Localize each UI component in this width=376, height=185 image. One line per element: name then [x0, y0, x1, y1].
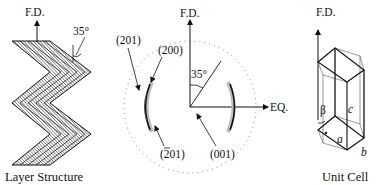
- hatch-line: [19, 30, 159, 175]
- hatch-line: [0, 30, 108, 175]
- reflection-200-pointer: [151, 57, 162, 82]
- beta-angle-label: β: [320, 104, 326, 117]
- hatch-line: [0, 30, 118, 175]
- beta-angle-arc: [318, 121, 325, 123]
- hatch-line: [6, 30, 146, 175]
- hatch-line: [0, 30, 121, 175]
- hatch-line: [0, 30, 22, 175]
- diffraction-angle-label: 35°: [191, 68, 208, 80]
- hatch-line: [0, 30, 2, 175]
- edge-label-a: a: [337, 133, 343, 145]
- reflection-001-pointer: [197, 114, 216, 146]
- edge-label-b: b: [361, 146, 367, 158]
- reflection-label-001: (001): [210, 148, 235, 161]
- beta-angle-vertex: [325, 132, 327, 134]
- hatch-line: [0, 30, 28, 175]
- hatch-line: [0, 30, 134, 175]
- layer-angle-label: 35°: [73, 25, 90, 37]
- diffraction-fd-label: F.D.: [180, 7, 200, 19]
- hatch-line: [0, 30, 6, 175]
- layer-structure-caption: Layer Structure: [5, 170, 84, 184]
- hatch-line: [70, 30, 210, 175]
- unit-cell-panel: F.D. β c a b Unit Cell: [316, 6, 369, 184]
- reflection-label-201bar: (201): [160, 148, 185, 161]
- reflection-label-201: (201): [116, 34, 141, 47]
- reflection-201bar-pointer: [155, 126, 164, 146]
- fiber-diffraction-figure: F.D. 35° Layer Structure F.D. EQ. 35: [0, 0, 376, 185]
- reflection-201-pointer: [128, 48, 139, 90]
- reflection-label-200: (200): [158, 44, 183, 57]
- hatch-line: [0, 30, 9, 175]
- hatch-line: [0, 30, 92, 175]
- hatch-line: [0, 30, 12, 175]
- diffraction-left-arcs: [145, 82, 153, 132]
- hatch-line: [35, 30, 175, 175]
- hatch-line: [0, 30, 98, 175]
- unit-cell-caption: Unit Cell: [322, 170, 369, 184]
- layer-fd-label: F.D.: [25, 6, 45, 18]
- hatch-line: [32, 30, 172, 175]
- diffraction-pattern-panel: F.D. EQ. 35° (201) (200) (201) (001): [116, 7, 288, 173]
- diffraction-angle-arc: [190, 85, 203, 88]
- layer-angle-arc: [73, 54, 81, 57]
- edge-label-c: c: [348, 103, 353, 115]
- hatch-line: [0, 30, 111, 175]
- layer-angle-leader: [76, 37, 85, 55]
- diffraction-eq-label: EQ.: [270, 101, 288, 113]
- hatch-line: [86, 30, 226, 175]
- hatch-line: [83, 30, 223, 175]
- hatch-line: [80, 30, 220, 175]
- hatch-line: [0, 30, 114, 175]
- hatch-line: [67, 30, 207, 175]
- unit-cell-fd-label: F.D.: [316, 6, 336, 18]
